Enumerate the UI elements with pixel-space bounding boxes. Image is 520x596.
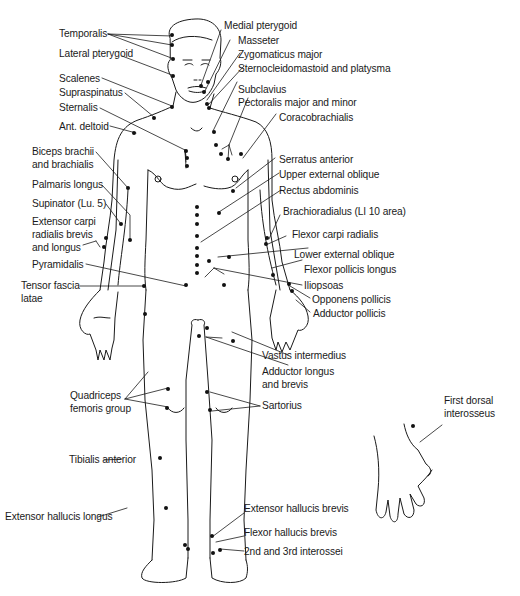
label-first-dorsal-interosseus-2: interosseus (444, 408, 495, 421)
label-first-dorsal-interosseus-1: First dorsal (444, 395, 493, 408)
label-subclavius: Subclavius (238, 84, 286, 97)
label-extensor-hallucis-brevis: Extensor hallucis brevis (244, 503, 349, 516)
label-sartorius: Sartorius (262, 400, 302, 413)
label-lower-external-oblique: Lower external oblique (294, 249, 394, 262)
label-adductor-longus: Adductor longus (262, 366, 334, 379)
label-quadriceps-2: femoris group (70, 403, 131, 416)
head-outline (168, 19, 221, 102)
label-ant-deltoid: Ant. deltoid (59, 121, 109, 134)
label-scalenes: Scalenes (59, 73, 100, 86)
label-masseter: Masseter (238, 35, 279, 48)
label-2nd-3rd-interossei: 2nd and 3rd interossei (244, 546, 343, 559)
left-hand-outline (270, 290, 308, 352)
label-flexor-carpi-radialis: Flexor carpi radialis (292, 229, 378, 242)
label-pyramidalis: Pyramidalis (32, 259, 84, 272)
label-extensor-hallucis-longus: Extensor hallucis longus (5, 511, 112, 524)
label-serratus-anterior: Serratus anterior (279, 154, 353, 167)
label-brachioradialis: Brachioradialus (LI 10 area) (283, 206, 406, 219)
label-quadriceps-1: Quadriceps (70, 390, 121, 403)
label-ecr-1: Extensor carpi (32, 216, 96, 229)
feet-outline (142, 558, 248, 583)
label-lateral-pterygoid: Lateral pterygoid (59, 48, 133, 61)
label-biceps-brachii: Biceps brachii (32, 146, 94, 159)
label-zygomaticus-major: Zygomaticus major (238, 49, 322, 62)
label-temporalis: Temporalis (59, 28, 107, 41)
label-adductor-longus-2: and brevis (262, 379, 308, 392)
label-biceps-brachii-2: and brachialis (32, 159, 93, 172)
label-pectoralis: Pectoralis major and minor (238, 97, 357, 110)
label-iliopsoas: Iliopsoas (304, 280, 343, 293)
label-adductor-pollicis: Adductor pollicis (313, 308, 385, 321)
label-flexor-pollicis-longus: Flexor pollicis longus (304, 264, 396, 277)
label-rectus-abdominis: Rectus abdominis (279, 185, 358, 198)
label-vastus-intermedius: Vastus intermedius (262, 350, 346, 363)
label-ecr-2: radialis brevis (32, 229, 93, 242)
label-flexor-hallucis-brevis: Flexor hallucis brevis (244, 527, 337, 540)
right-hand-outline (80, 290, 118, 360)
label-tfl-1: Tensor fascia (21, 280, 80, 293)
label-sternalis: Sternalis (59, 102, 98, 115)
label-supraspinatus: Supraspinatus (59, 87, 123, 100)
label-sternocleidomastoid: Sternocleidomastoid and platysma (238, 63, 391, 76)
label-tibialis-anterior: Tibialis anterior (69, 454, 136, 467)
label-medial-pterygoid: Medial pterygoid (224, 20, 297, 33)
label-upper-external-oblique: Upper external oblique (279, 169, 379, 182)
label-coracobrachialis: Coracobrachialis (279, 112, 353, 125)
label-supinator: Supinator (Lu. 5) (32, 198, 106, 211)
label-opponens-pollicis: Opponens pollicis (312, 294, 391, 307)
label-palmaris-longus: Palmaris longus (32, 179, 103, 192)
label-ecr-3: and longus (32, 242, 81, 255)
label-tfl-2: latae (21, 293, 43, 306)
torso-outline (100, 92, 290, 560)
inset-hand-outline (374, 424, 432, 522)
